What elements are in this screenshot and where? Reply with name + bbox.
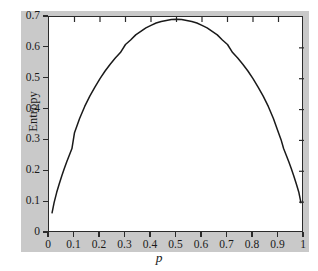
x-tick-label: 0.3 [117,239,131,251]
x-tick-label: 0.7 [219,239,233,251]
x-tick-label: 0.4 [143,239,157,251]
y-axis-tick [43,108,48,109]
chart-canvas [49,17,304,233]
x-axis-tick [73,232,74,237]
x-axis-tick [149,232,150,237]
plot-area [48,16,303,232]
x-axis-tick [47,232,48,237]
x-axis-tick [124,232,125,237]
y-axis-tick [43,139,48,140]
x-axis-tick [302,232,303,237]
x-axis-tick [200,232,201,237]
x-axis-tick [277,232,278,237]
x-axis-tick [251,232,252,237]
y-axis-tick [43,15,48,16]
x-axis-tick [98,232,99,237]
y-axis-title: Entropy [26,67,41,157]
x-axis-title: p [0,250,318,266]
y-tick-label: 0.1 [8,195,40,207]
y-axis-tick [43,46,48,47]
y-axis-tick [43,170,48,171]
entropy-curve [52,19,301,213]
y-axis-tick [43,201,48,202]
x-axis-tick [175,232,176,237]
y-tick-label: 0 [8,226,40,238]
x-tick-label: 1 [300,239,306,251]
x-tick-label: 0.5 [168,239,182,251]
x-tick-label: 0.1 [66,239,80,251]
y-tick-label: 0.6 [8,41,40,53]
x-axis-tick [226,232,227,237]
x-tick-label: 0 [45,239,51,251]
x-tick-label: 0.8 [245,239,259,251]
y-tick-label: 0.7 [8,10,40,22]
y-axis-tick [43,77,48,78]
y-tick-label: 0.2 [8,165,40,177]
x-tick-label: 0.2 [92,239,106,251]
x-tick-label: 0.9 [270,239,284,251]
x-tick-label: 0.6 [194,239,208,251]
